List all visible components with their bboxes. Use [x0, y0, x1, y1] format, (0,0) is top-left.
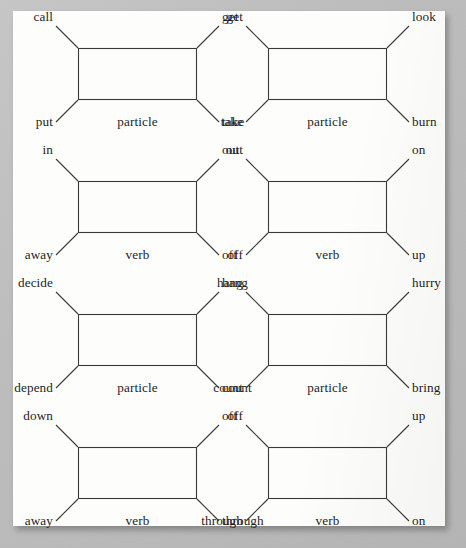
label-top-left: in	[43, 142, 53, 158]
leader-line-0	[246, 159, 268, 181]
label-top-left: off	[228, 408, 243, 424]
label-bottom-right: on	[412, 513, 425, 529]
leader-line-0	[56, 425, 78, 447]
box-frame	[56, 159, 219, 255]
label-bottom-right: burn	[412, 114, 437, 130]
label-top-left: get	[227, 9, 243, 25]
leader-line-0	[56, 292, 78, 314]
label-center: verb	[316, 513, 340, 529]
label-top-left: down	[23, 408, 53, 424]
label-bottom-right: bring	[412, 380, 440, 396]
leader-line-0	[246, 292, 268, 314]
label-top-right: on	[412, 142, 425, 158]
box-frame	[56, 292, 219, 388]
leader-line-2	[246, 366, 268, 388]
label-center: verb	[126, 513, 150, 529]
leader-line-1	[197, 159, 219, 181]
leader-line-1	[387, 159, 409, 181]
leader-line-0	[246, 26, 268, 48]
label-bottom-left: through	[201, 513, 243, 529]
label-top-left: call	[34, 9, 53, 25]
label-center: verb	[316, 247, 340, 263]
label-center: verb	[126, 247, 150, 263]
label-bottom-left: put	[36, 114, 53, 130]
box-frame	[246, 26, 409, 122]
label-bottom-left: count	[213, 380, 243, 396]
label-center: particle	[117, 380, 157, 396]
label-top-left: decide	[18, 275, 53, 291]
box-frame	[56, 425, 219, 521]
label-center: particle	[307, 380, 347, 396]
leader-line-0	[56, 159, 78, 181]
label-top-right: hurry	[412, 275, 441, 291]
label-top-right: look	[412, 9, 436, 25]
leader-line-2	[246, 499, 268, 521]
box-frame	[246, 292, 409, 388]
box-diagram: hanghurrycountbringparticle	[268, 314, 387, 366]
leader-line-2	[56, 100, 78, 122]
leader-line-2	[56, 233, 78, 255]
label-center: particle	[307, 114, 347, 130]
box-diagram: getlooktakeburnparticle	[268, 48, 387, 100]
box-diagram: decidehangdependcountparticle	[78, 314, 197, 366]
leader-line-0	[56, 26, 78, 48]
leader-line-3	[387, 233, 409, 255]
box-diagram: inoutawayoffverb	[78, 181, 197, 233]
label-top-right: up	[412, 408, 425, 424]
leader-line-1	[387, 26, 409, 48]
box-frame	[56, 26, 219, 122]
leader-line-2	[246, 100, 268, 122]
book-page: callgetputtakeparticlegetlooktakeburnpar…	[13, 11, 445, 526]
box-diagram: callgetputtakeparticle	[78, 48, 197, 100]
leader-line-2	[56, 499, 78, 521]
leader-line-1	[387, 425, 409, 447]
leader-line-1	[197, 292, 219, 314]
leader-line-3	[387, 100, 409, 122]
box-frame	[246, 159, 409, 255]
label-bottom-left: away	[25, 513, 53, 529]
label-bottom-left: depend	[14, 380, 53, 396]
label-top-left: hang	[217, 275, 243, 291]
box-diagram: downoffawaythroughverb	[78, 447, 197, 499]
leader-line-1	[197, 26, 219, 48]
label-center: particle	[117, 114, 157, 130]
leader-line-0	[246, 425, 268, 447]
label-top-left: out	[226, 142, 243, 158]
label-bottom-left: away	[25, 247, 53, 263]
label-bottom-left: take	[221, 114, 243, 130]
box-frame	[246, 425, 409, 521]
leader-line-1	[197, 425, 219, 447]
box-diagram: offupthroughonverb	[268, 447, 387, 499]
label-bottom-right: up	[412, 247, 425, 263]
leader-line-3	[197, 100, 219, 122]
leader-line-3	[197, 233, 219, 255]
leader-line-1	[387, 292, 409, 314]
leader-line-3	[387, 366, 409, 388]
leader-line-3	[387, 499, 409, 521]
label-bottom-left: off	[228, 247, 243, 263]
leader-line-2	[56, 366, 78, 388]
box-diagram: outonoffupverb	[268, 181, 387, 233]
leader-line-2	[246, 233, 268, 255]
